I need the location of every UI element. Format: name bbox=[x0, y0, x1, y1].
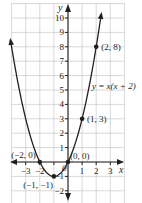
y-axis-arrow-down-icon bbox=[65, 193, 71, 201]
point-label: (0, 0) bbox=[70, 151, 90, 161]
equation-label: y = x(x + 2) bbox=[91, 81, 136, 91]
y-axis-label: y bbox=[57, 2, 63, 13]
x-tick-label: 3 bbox=[108, 166, 113, 176]
point-label: (−1, −1) bbox=[23, 180, 53, 190]
y-tick-label: 10 bbox=[55, 13, 65, 23]
x-tick-label: 2 bbox=[94, 166, 99, 176]
y-tick-label: 5 bbox=[60, 85, 65, 95]
y-tick-label: 6 bbox=[60, 71, 65, 81]
y-tick-label: 4 bbox=[60, 99, 65, 109]
data-point bbox=[80, 117, 85, 122]
y-tick-label: 9 bbox=[60, 27, 65, 37]
y-tick-label: 8 bbox=[60, 42, 65, 52]
data-point bbox=[38, 160, 43, 165]
curve-arrow-icon bbox=[98, 12, 104, 19]
y-tick-label: 1 bbox=[60, 143, 65, 153]
y-tick-label: 2 bbox=[60, 128, 65, 138]
point-label: (−2, 0) bbox=[11, 150, 36, 160]
x-axis-label: x bbox=[118, 164, 124, 175]
y-tick-label: −2 bbox=[54, 186, 64, 196]
y-tick-label: 3 bbox=[60, 114, 65, 124]
y-tick-label: 7 bbox=[60, 56, 65, 66]
point-label: (2, 8) bbox=[101, 42, 121, 52]
x-tick-label: −3 bbox=[21, 166, 31, 176]
x-tick-label: 1 bbox=[80, 166, 85, 176]
y-axis-arrow-up-icon bbox=[65, 4, 71, 12]
point-label: (1, 3) bbox=[87, 114, 107, 124]
data-point bbox=[52, 174, 57, 179]
parabola-graph: xy −2−112345678910−3−21230 (2, 8)(1, 3)(… bbox=[0, 0, 142, 203]
data-point bbox=[94, 45, 99, 50]
